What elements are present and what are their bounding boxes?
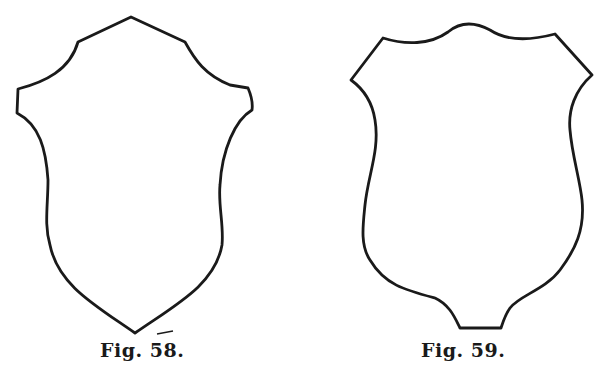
shield-outline-fig59 <box>351 24 592 328</box>
shield-outline-fig58 <box>17 17 252 333</box>
figure-caption-58: Fig. 58. <box>100 339 184 361</box>
stray-mark <box>157 331 173 334</box>
shield-illustrations <box>0 0 605 378</box>
figure-caption-59: Fig. 59. <box>421 339 505 361</box>
